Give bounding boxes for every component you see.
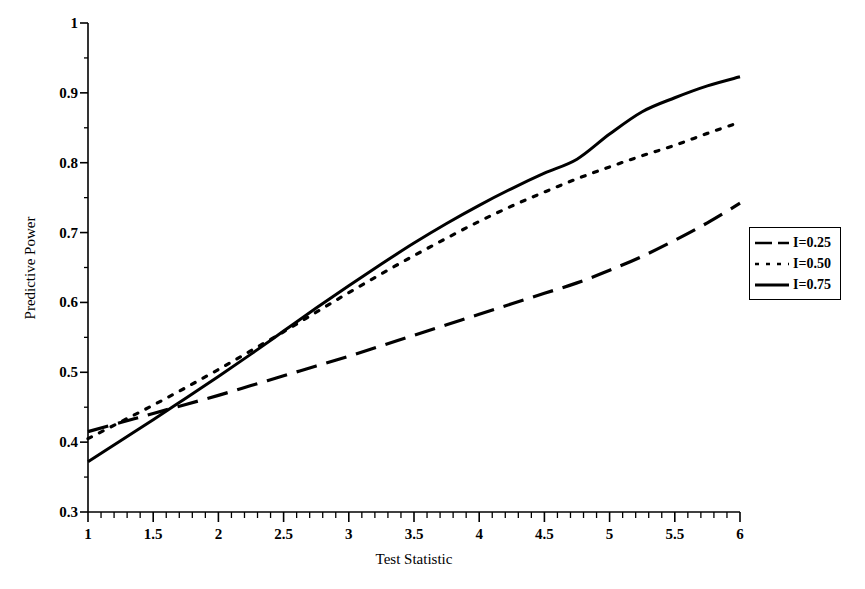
x-axis-tick-label: 4.5 xyxy=(535,527,554,542)
plot-canvas xyxy=(0,0,865,589)
x-axis-title: Test Statistic xyxy=(376,551,453,568)
legend-swatch-dotted-icon xyxy=(754,258,790,270)
y-axis-tick-label: 0.5 xyxy=(28,365,78,380)
x-axis-tick-label: 5 xyxy=(606,527,614,542)
x-axis-tick-label: 1 xyxy=(84,527,92,542)
x-axis-tick-label: 5.5 xyxy=(665,527,684,542)
data-series-group xyxy=(88,77,740,462)
x-axis-tick-label: 3 xyxy=(345,527,353,542)
x-axis-tick-label: 1.5 xyxy=(144,527,163,542)
legend-swatch-dashed-icon xyxy=(754,237,790,249)
y-axis-tick-label: 0.8 xyxy=(28,155,78,170)
y-axis-title: Predictive Power xyxy=(22,217,39,320)
series-line-i050 xyxy=(88,122,740,438)
x-axis-tick-label: 3.5 xyxy=(405,527,424,542)
legend-swatch-solid-icon xyxy=(754,279,790,291)
x-axis-tick-label: 2.5 xyxy=(274,527,293,542)
chart-figure: 0.30.40.50.60.70.80.91 11.522.533.544.55… xyxy=(0,0,865,589)
y-axis-tick-label: 0.9 xyxy=(28,85,78,100)
axis-lines xyxy=(88,23,740,512)
legend-label-0: I=0.25 xyxy=(793,236,831,250)
y-axis-tick-label: 0.4 xyxy=(28,435,78,450)
y-axis-tick-label: 0.3 xyxy=(28,505,78,520)
x-axis-tick-label: 2 xyxy=(215,527,223,542)
y-axis-tick-label: 1 xyxy=(28,16,78,31)
x-axis-tick-label: 4 xyxy=(475,527,483,542)
x-axis-tick-label: 6 xyxy=(736,527,744,542)
legend-label-1: I=0.50 xyxy=(793,257,831,271)
legend-label-2: I=0.75 xyxy=(793,278,831,292)
x-axis-ticks xyxy=(88,512,740,522)
legend-item-2: I=0.75 xyxy=(754,274,835,295)
legend-item-1: I=0.50 xyxy=(754,253,835,274)
chart-legend: I=0.25 I=0.50 I=0.75 xyxy=(749,227,841,300)
legend-item-0: I=0.25 xyxy=(754,232,835,253)
